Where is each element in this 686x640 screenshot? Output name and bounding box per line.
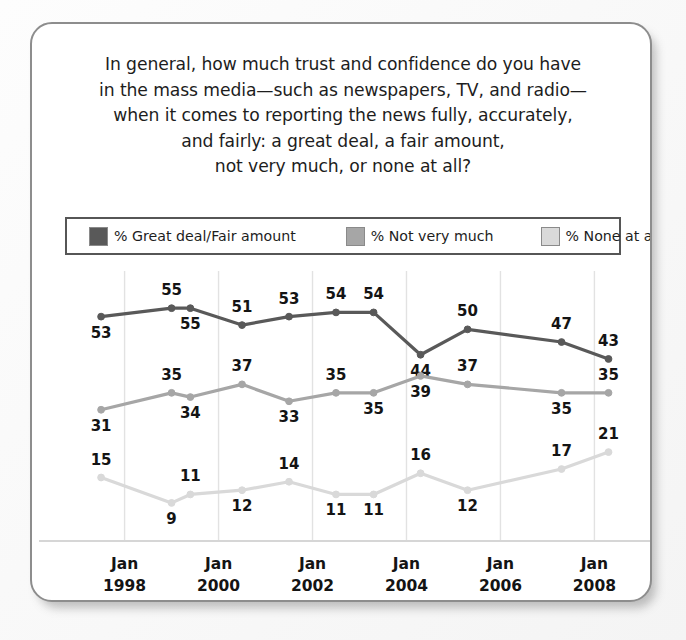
data-point-2-0[interactable] <box>98 474 105 481</box>
data-point-2-1[interactable] <box>168 500 175 507</box>
data-point-1-2[interactable] <box>187 394 194 401</box>
data-label-2-2: 11 <box>180 467 201 485</box>
series-2 <box>98 449 612 507</box>
x-tick-month-3: Jan <box>392 555 420 573</box>
data-label-0-6: 54 <box>363 285 384 303</box>
data-point-2-4[interactable] <box>286 478 293 485</box>
series-0 <box>98 305 612 363</box>
data-point-0-9[interactable] <box>558 339 565 346</box>
x-tick-year-0: 1998 <box>103 577 146 595</box>
data-point-1-3[interactable] <box>239 381 246 388</box>
x-tick-month-1: Jan <box>204 555 232 573</box>
data-point-0-10[interactable] <box>605 356 612 363</box>
data-point-0-0[interactable] <box>98 313 105 320</box>
series-line-2 <box>101 452 608 503</box>
data-label-1-9: 35 <box>551 400 572 418</box>
data-label-2-1: 9 <box>166 510 176 528</box>
data-point-1-7[interactable] <box>417 373 424 380</box>
data-label-1-8: 37 <box>457 357 478 375</box>
data-point-0-2[interactable] <box>187 305 194 312</box>
data-point-2-5[interactable] <box>333 491 340 498</box>
data-point-0-8[interactable] <box>464 326 471 333</box>
data-label-1-0: 31 <box>91 417 112 435</box>
data-label-2-4: 14 <box>279 455 300 473</box>
x-tick-month-2: Jan <box>298 555 326 573</box>
data-point-0-4[interactable] <box>286 313 293 320</box>
legend-swatch-icon-1 <box>346 227 365 246</box>
data-point-1-5[interactable] <box>333 389 340 396</box>
data-label-0-1: 55 <box>161 281 182 299</box>
data-label-1-10: 35 <box>598 366 619 384</box>
data-point-1-1[interactable] <box>168 389 175 396</box>
data-label-2-6: 11 <box>363 501 384 519</box>
data-point-0-7[interactable] <box>417 351 424 358</box>
x-tick-month-0: Jan <box>110 555 138 573</box>
x-tick-year-1: 2000 <box>197 577 240 595</box>
data-label-1-1: 35 <box>161 366 182 384</box>
data-point-0-6[interactable] <box>370 309 377 316</box>
data-label-2-5: 11 <box>326 501 347 519</box>
data-label-2-3: 12 <box>232 497 253 515</box>
chart-legend: % Great deal/Fair amount% Not very much%… <box>65 217 621 255</box>
data-label-0-3: 51 <box>232 298 253 316</box>
data-point-1-4[interactable] <box>286 398 293 405</box>
data-label-0-4: 53 <box>279 290 300 308</box>
chart-title-line-4: not very much, or none at all? <box>32 154 652 180</box>
chart-title-line-2: when it comes to reporting the news full… <box>32 103 652 129</box>
data-point-1-0[interactable] <box>98 406 105 413</box>
x-tick-year-4: 2006 <box>479 577 522 595</box>
legend-label-1: % Not very much <box>371 228 494 244</box>
x-tick-year-3: 2004 <box>385 577 428 595</box>
x-tick-month-4: Jan <box>486 555 514 573</box>
data-label-1-6: 35 <box>363 400 384 418</box>
data-label-1-7: 39 <box>410 383 431 401</box>
data-label-0-8: 50 <box>457 302 478 320</box>
data-label-2-10: 21 <box>598 425 619 443</box>
data-point-0-5[interactable] <box>333 309 340 316</box>
legend-item-0[interactable]: % Great deal/Fair amount <box>89 227 296 246</box>
data-point-2-8[interactable] <box>464 487 471 494</box>
legend-item-1[interactable]: % Not very much <box>346 227 494 246</box>
x-tick-year-5: 2008 <box>573 577 616 595</box>
data-point-1-9[interactable] <box>558 389 565 396</box>
data-label-0-10: 43 <box>598 332 619 350</box>
data-label-2-9: 17 <box>551 442 572 460</box>
data-label-0-0: 53 <box>91 324 112 342</box>
data-point-2-9[interactable] <box>558 466 565 473</box>
data-label-0-9: 47 <box>551 315 572 333</box>
x-tick-year-2: 2002 <box>291 577 334 595</box>
x-tick-month-5: Jan <box>580 555 608 573</box>
plot-area: 5355555153545444504743313534373335353937… <box>32 269 652 602</box>
data-point-1-6[interactable] <box>370 389 377 396</box>
figure-canvas: In general, how much trust and confidenc… <box>0 0 686 640</box>
data-point-0-3[interactable] <box>239 322 246 329</box>
chart-title-line-3: and fairly: a great deal, a fair amount, <box>32 129 652 155</box>
chart-card: In general, how much trust and confidenc… <box>30 22 652 602</box>
data-label-0-2: 55 <box>180 315 201 333</box>
data-point-0-1[interactable] <box>168 305 175 312</box>
data-label-2-7: 16 <box>410 446 431 464</box>
data-point-2-6[interactable] <box>370 491 377 498</box>
legend-item-2[interactable]: % None at all <box>541 227 652 246</box>
data-label-0-5: 54 <box>326 285 347 303</box>
data-label-1-2: 34 <box>180 404 201 422</box>
data-label-2-8: 12 <box>457 497 478 515</box>
data-point-2-2[interactable] <box>187 491 194 498</box>
data-point-2-7[interactable] <box>417 470 424 477</box>
data-label-1-3: 37 <box>232 357 253 375</box>
data-point-1-10[interactable] <box>605 389 612 396</box>
data-point-2-3[interactable] <box>239 487 246 494</box>
chart-title: In general, how much trust and confidenc… <box>32 52 652 180</box>
legend-label-0: % Great deal/Fair amount <box>114 228 296 244</box>
legend-swatch-icon-0 <box>89 227 108 246</box>
data-label-2-0: 15 <box>91 451 112 469</box>
data-point-2-10[interactable] <box>605 449 612 456</box>
data-label-1-5: 35 <box>326 366 347 384</box>
legend-swatch-icon-2 <box>541 227 560 246</box>
chart-title-line-0: In general, how much trust and confidenc… <box>32 52 652 78</box>
series-line-0 <box>101 308 608 359</box>
data-point-1-8[interactable] <box>464 381 471 388</box>
data-label-1-4: 33 <box>279 408 300 426</box>
legend-label-2: % None at all <box>566 228 652 244</box>
chart-title-line-1: in the mass media—such as newspapers, TV… <box>32 78 652 104</box>
